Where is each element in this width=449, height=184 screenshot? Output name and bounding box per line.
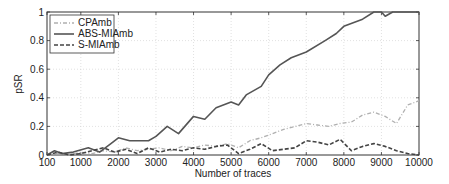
x-tick-label: 3000 xyxy=(145,157,168,168)
line-chart: 1001000200030004000500060007000800090001… xyxy=(0,0,449,184)
x-tick-label: 9000 xyxy=(370,157,393,168)
series-line-s-miamb xyxy=(47,139,419,155)
x-tick-label: 4000 xyxy=(182,157,205,168)
x-tick-label: 8000 xyxy=(333,157,356,168)
x-tick-label: 7000 xyxy=(295,157,318,168)
x-tick-label: 10000 xyxy=(405,157,433,168)
y-axis-label: pSR xyxy=(13,74,24,93)
x-tick-label: 2000 xyxy=(107,157,130,168)
y-tick-label: 0.4 xyxy=(30,92,44,103)
y-tick-label: 0.6 xyxy=(30,64,44,75)
legend: CPAmb ABS-MIAmb S-MIAmb xyxy=(50,15,133,53)
y-tick-label: 0.8 xyxy=(30,35,44,46)
legend-label-cpamb: CPAmb xyxy=(78,17,112,28)
x-tick-label: 6000 xyxy=(258,157,281,168)
x-tick-label: 5000 xyxy=(220,157,243,168)
y-tick-label: 0.2 xyxy=(30,121,44,132)
x-tick-label: 1000 xyxy=(70,157,93,168)
y-tick-label: 0 xyxy=(38,150,44,161)
legend-label-abs-miamb: ABS-MIAmb xyxy=(78,28,133,39)
x-axis-label: Number of traces xyxy=(195,168,272,179)
legend-label-s-miamb: S-MIAmb xyxy=(78,39,120,50)
y-tick-label: 1 xyxy=(38,7,44,18)
